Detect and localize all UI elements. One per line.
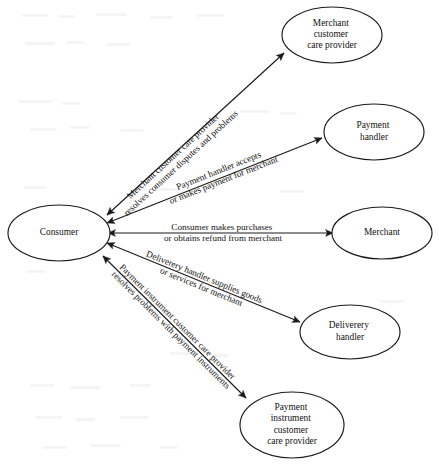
node-label-line: Consumer (40, 227, 79, 237)
node-label-line: care provider (267, 436, 318, 446)
edge-label-line: Deliverery handler supplies goods (145, 248, 264, 305)
node-payment-handler-label: Payment handler (356, 121, 391, 142)
node-label-line: handler (336, 332, 365, 342)
node-merchant-customer-care-provider[interactable]: Merchant customer care provider (282, 7, 382, 63)
node-label-line: customer (314, 29, 349, 39)
edge-merchant-label: Consumer makes purchases or obtains refu… (164, 222, 283, 243)
diagram-canvas: Merchant customer care provider resolves… (0, 0, 439, 464)
edge-label-line: Consumer makes purchases (171, 222, 272, 232)
node-label-line: customer (274, 425, 309, 435)
relationship-diagram: Merchant customer care provider resolves… (0, 0, 439, 464)
node-label-line: care provider (307, 40, 358, 50)
node-label-line: Deliverery (329, 321, 369, 331)
node-consumer-label: Consumer (40, 227, 79, 237)
node-merchant[interactable]: Merchant (332, 207, 432, 259)
node-label-line: handler (360, 132, 389, 142)
node-payment-handler[interactable]: Payment handler (324, 104, 424, 160)
node-label-line: instrument (271, 414, 311, 424)
node-consumer[interactable]: Consumer (8, 205, 110, 261)
node-label-line: Merchant (364, 227, 400, 237)
node-deliverery-handler[interactable]: Deliverery handler (300, 305, 400, 359)
edge-label-line: or obtains refund from merchant (164, 233, 283, 243)
node-label-line: Merchant (313, 18, 349, 28)
edge-merchant: Consumer makes purchases or obtains refu… (108, 222, 333, 243)
node-label-line: Payment (274, 402, 307, 412)
node-merchant-customer-care-provider-label: Merchant customer care provider (307, 18, 358, 50)
node-merchant-label: Merchant (364, 227, 400, 237)
node-label-line: Payment (356, 121, 389, 131)
node-payment-instrument-customer-care-provider[interactable]: Payment instrument customer care provide… (240, 392, 344, 458)
